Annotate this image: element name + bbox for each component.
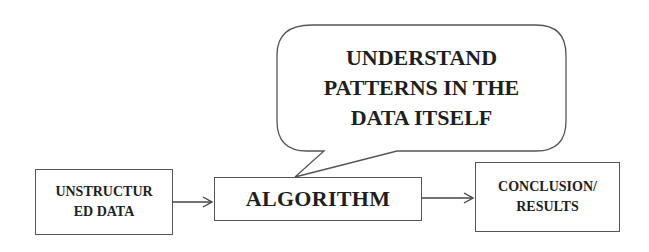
node-unstructured-data: UNSTRUCTUR ED DATA [35,169,173,235]
node-algorithm-label: ALGORITHM [246,186,391,212]
callout-understand-patterns: UNDERSTAND PATTERNS IN THE DATA ITSELF [277,25,566,151]
callout-line-2: PATTERNS IN THE [324,73,520,103]
callout-line-3: DATA ITSELF [351,103,493,133]
flow-diagram: UNDERSTAND PATTERNS IN THE DATA ITSELF U… [0,0,649,252]
arrow-algorithm-to-output [422,193,473,203]
node-output-line-2: RESULTS [498,197,597,217]
node-output-line-1: CONCLUSION/ [498,177,597,197]
arrow-input-to-algorithm [173,197,212,207]
node-input-line-2: ED DATA [55,202,152,222]
node-input-line-1: UNSTRUCTUR [55,182,152,202]
node-algorithm: ALGORITHM [214,177,422,221]
callout-line-1: UNDERSTAND [346,43,497,73]
node-conclusion-results: CONCLUSION/ RESULTS [475,162,620,232]
